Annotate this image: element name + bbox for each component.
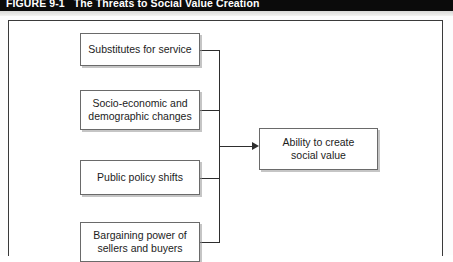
- figure-number-label: FIGURE 9-1: [6, 0, 65, 9]
- arrow-shaft-to-outcome: [219, 146, 255, 147]
- figure-title-text: The Threats to Social Value Creation: [74, 0, 260, 9]
- node-label-bargaining-power: Bargaining power of sellers and buyers: [88, 229, 191, 255]
- node-box-bargaining-power: Bargaining power of sellers and buyers: [80, 222, 200, 262]
- connector-stub-policy: [200, 178, 220, 179]
- connector-stub-socio: [200, 110, 220, 111]
- node-box-outcome: Ability to create social value: [259, 128, 378, 170]
- title-underband: [0, 11, 453, 16]
- node-box-public-policy: Public policy shifts: [80, 160, 200, 195]
- node-box-socio-economic: Socio-economic and demographic changes: [80, 90, 200, 130]
- arrow-head-icon: [252, 142, 259, 150]
- node-label-socio-economic: Socio-economic and demographic changes: [83, 97, 196, 123]
- connector-stub-substitutes: [200, 50, 220, 51]
- figure-title-bar: FIGURE 9-1The Threats to Social Value Cr…: [0, 0, 453, 11]
- node-label-public-policy: Public policy shifts: [92, 171, 188, 184]
- figure-title-inner: FIGURE 9-1The Threats to Social Value Cr…: [6, 0, 259, 9]
- node-box-substitutes: Substitutes for service: [80, 33, 200, 66]
- node-label-outcome: Ability to create social value: [278, 136, 360, 162]
- node-label-substitutes: Substitutes for service: [83, 43, 196, 56]
- connector-stub-bargaining: [200, 242, 220, 243]
